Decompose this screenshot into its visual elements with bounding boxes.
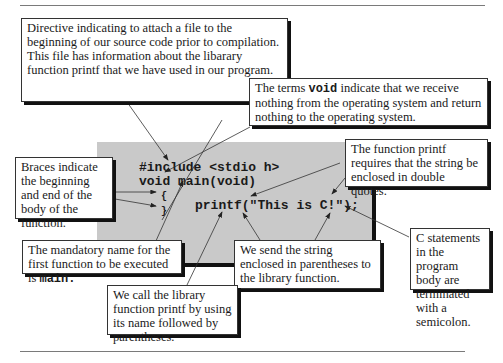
code-line-close-brace: } xyxy=(161,204,167,219)
callout-semicolon: C statements in the program body are ter… xyxy=(410,228,490,290)
callout-void-pre: The terms xyxy=(255,81,308,95)
callout-parentheses: We send the string enclosed in parenthes… xyxy=(234,240,381,289)
callout-call-function: We call the library function printf by u… xyxy=(107,285,238,335)
callout-braces: Braces indicate the beginning and end of… xyxy=(15,157,113,219)
code-line-printf: printf("This is C!"); xyxy=(195,198,359,213)
code-line-include: #include <stdio h> xyxy=(139,160,279,175)
callout-main-keyword: main. xyxy=(39,272,75,286)
code-line-main: void main(void) xyxy=(139,174,256,189)
callout-void-keyword: void xyxy=(308,82,337,96)
callout-include-directive-text: Directive indicating to attach a file to… xyxy=(27,21,279,77)
code-line-open-brace: { xyxy=(161,189,167,204)
callout-double-quotes-text: The function printf requires that the st… xyxy=(351,142,478,198)
callout-double-quotes: The function printf requires that the st… xyxy=(345,139,488,187)
callout-semicolon-text: C statements in the program body are ter… xyxy=(416,231,480,329)
callout-braces-text: Braces indicate the beginning and end of… xyxy=(21,160,98,230)
callout-include-directive: Directive indicating to attach a file to… xyxy=(21,18,288,102)
callout-parentheses-text: We send the string enclosed in parenthes… xyxy=(240,243,371,285)
top-rule xyxy=(20,5,485,6)
callout-main-name: The mandatory name for the first functio… xyxy=(22,240,182,274)
bottom-rule xyxy=(20,351,465,352)
callout-void-terms: The terms void indicate that we receive … xyxy=(249,78,488,126)
callout-call-function-text: We call the library function printf by u… xyxy=(113,288,231,344)
